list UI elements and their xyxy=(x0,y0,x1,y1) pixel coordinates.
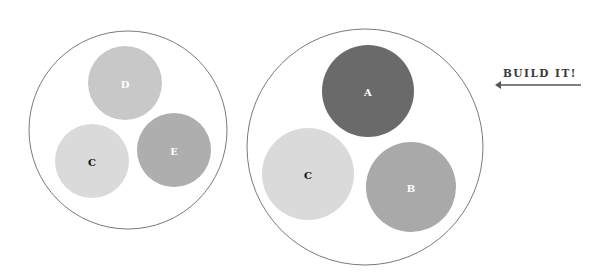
node-e-label: E xyxy=(170,146,178,157)
right-group: A C B xyxy=(247,29,483,265)
build-it-annotation: BUILD IT! xyxy=(495,67,581,89)
node-d-label: D xyxy=(121,79,130,90)
node-a: A xyxy=(322,45,414,137)
arrow-left-icon xyxy=(495,81,581,89)
node-b: B xyxy=(366,142,456,232)
node-c-left-label: C xyxy=(88,157,96,168)
node-b-label: B xyxy=(407,183,415,194)
node-c-right-label: C xyxy=(304,170,312,181)
node-e: E xyxy=(137,113,211,187)
left-group: D C E xyxy=(29,31,227,229)
node-c-left: C xyxy=(55,124,129,198)
node-a-label: A xyxy=(363,87,372,98)
diagram-canvas: D C E A C B BUILD IT! xyxy=(0,0,608,277)
node-c-right: C xyxy=(262,128,354,220)
node-d: D xyxy=(88,46,162,120)
build-it-text: BUILD IT! xyxy=(503,67,577,79)
